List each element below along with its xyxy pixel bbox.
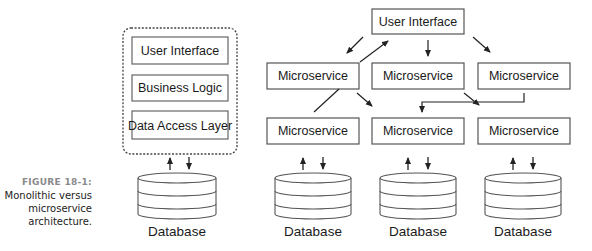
arrow-ui-to-ms3-icon — [473, 37, 490, 52]
ms-bottom-2-label: Microservice — [383, 124, 453, 138]
arrow-ms1-to-bottom2-icon — [357, 93, 372, 106]
monolith-data-access-label: Data Access Layer — [128, 119, 232, 133]
ms-middle-3-label: Microservice — [489, 69, 559, 83]
ms-database-label-1: Database — [284, 224, 342, 239]
db-arrows — [303, 157, 533, 170]
arrow-ui-to-ms1-icon — [347, 37, 363, 53]
ms-database-label-2: Database — [389, 224, 447, 239]
arrow-ms2-to-bottom3-icon — [464, 93, 479, 105]
monolith-database-label: Database — [148, 224, 206, 239]
ms-ui-label: User Interface — [379, 15, 458, 29]
monolith-business-logic-label: Business Logic — [138, 81, 222, 95]
monolith-group: User Interface Business Logic Data Acces… — [123, 28, 237, 239]
connector-ms1-bottom1 — [314, 89, 339, 112]
ms-middle-2-label: Microservice — [383, 69, 453, 83]
monolith-ui-label: User Interface — [141, 44, 220, 58]
database-icon — [485, 173, 561, 219]
arrow-ms-to-ui-icon — [360, 41, 388, 62]
ms-bottom-1-label: Microservice — [278, 124, 348, 138]
database-icon — [275, 173, 351, 219]
architecture-diagram: User Interface Business Logic Data Acces… — [0, 0, 592, 251]
ms-middle-1-label: Microservice — [278, 69, 348, 83]
database-icon — [138, 173, 216, 219]
arrow-ms3-to-bottom2-icon — [422, 93, 524, 112]
ms-database-label-3: Database — [494, 224, 552, 239]
database-icon — [380, 173, 456, 219]
microservices-group: User Interface Microservice Microservice… — [267, 9, 570, 239]
ms-bottom-3-label: Microservice — [489, 124, 559, 138]
